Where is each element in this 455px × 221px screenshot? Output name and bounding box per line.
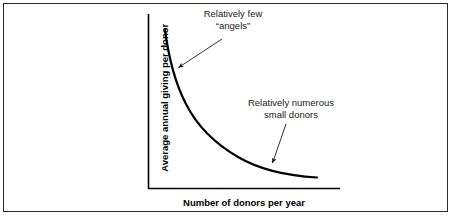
figure-container: Relatively few “angels” Relatively numer… bbox=[0, 0, 455, 221]
annotation-label-angels: Relatively few “angels” bbox=[178, 8, 288, 31]
x-axis-label: Number of donors per year bbox=[148, 197, 340, 208]
annotation-arrow-small-donors bbox=[273, 124, 287, 163]
y-axis-label: Average annual giving per donor bbox=[159, 8, 171, 188]
annotation-label-small-donors: Relatively numerous small donors bbox=[228, 97, 354, 120]
y-axis-label-container: Average annual giving per donor bbox=[105, 40, 225, 160]
